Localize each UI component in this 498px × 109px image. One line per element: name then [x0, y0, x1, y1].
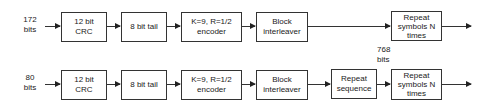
row2-encoder-block: K=9, R=1/2encoder	[181, 70, 242, 100]
row2-tail-block: 8 bit tail	[121, 70, 167, 100]
row2-interleaver-block: Blockinterleaver	[256, 70, 308, 100]
row2-repeat-sequence-block: Repeatsequence	[331, 69, 377, 99]
row2-arrow-crc-tail	[107, 84, 120, 85]
row2-arrow-encoder-interleaver	[242, 84, 255, 85]
row2-input-label: 80 bits	[16, 73, 44, 93]
row2-arrow-sequence-symbols	[377, 84, 390, 85]
intermediate-bits-label: 768 bits	[377, 45, 397, 65]
row1-input-unit: bits	[16, 25, 44, 35]
row1-tail-block: 8 bit tail	[121, 12, 167, 42]
row1-crc-block: 12 bitCRC	[61, 12, 107, 42]
row1-input-count: 172	[16, 15, 44, 25]
row1-repeat-symbols-block: Repeatsymbols Ntimes	[391, 11, 442, 41]
row1-arrow-interleaver-repeat	[308, 26, 390, 27]
row1-input-label: 172 bits	[16, 15, 44, 35]
row1-encoder-block: K=9, R=1/2encoder	[181, 12, 242, 42]
row2-arrow-interleaver-sequence	[308, 84, 330, 85]
row2-arrow-output	[442, 84, 471, 85]
row2-input-count: 80	[16, 73, 44, 83]
row1-arrow-crc-tail	[107, 26, 120, 27]
row2-crc-block: 12 bitCRC	[61, 70, 107, 100]
row2-repeat-symbols-block: Repeatsymbols Ntimes	[391, 69, 442, 100]
row2-arrow-tail-encoder	[167, 84, 180, 85]
row2-arrow-input	[45, 84, 60, 85]
row1-arrow-input	[45, 26, 60, 27]
row2-input-unit: bits	[16, 83, 44, 93]
row1-interleaver-block: Blockinterleaver	[256, 12, 308, 42]
row1-arrow-output	[442, 26, 471, 27]
row1-arrow-encoder-interleaver	[242, 26, 255, 27]
row1-arrow-tail-encoder	[167, 26, 180, 27]
